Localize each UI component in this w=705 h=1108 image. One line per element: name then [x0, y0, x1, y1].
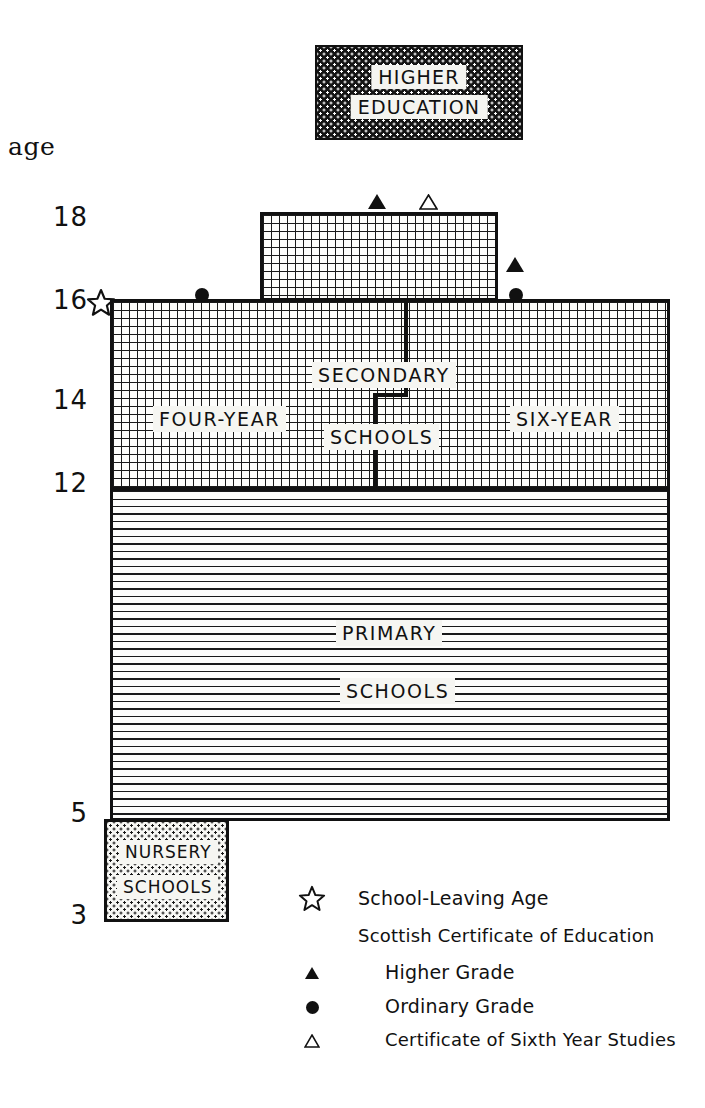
legend-item-ordinary-grade: Ordinary Grade — [295, 992, 695, 1026]
axis-tick-12: 12 — [32, 468, 88, 498]
axis-title: age — [8, 132, 55, 161]
secondary-schools-label-line2: SCHOOLS — [324, 424, 439, 450]
higher-education-label-line1: HIGHER — [371, 65, 466, 89]
axis-tick-16: 16 — [32, 285, 88, 315]
legend-item-sixth-year-studies: Certificate of Sixth Year Studies — [295, 1026, 695, 1060]
axis-tick-3: 3 — [32, 900, 88, 930]
legend-label-higher-grade: Higher Grade — [385, 961, 515, 983]
legend: School-Leaving Age Scottish Certificate … — [295, 884, 695, 1060]
secondary-schools-label-line1: SECONDARY — [312, 362, 456, 388]
legend-item-higher-grade: Higher Grade — [295, 958, 695, 992]
legend-label-sixth-year-studies: Certificate of Sixth Year Studies — [385, 1029, 676, 1050]
axis-tick-5: 5 — [32, 798, 88, 828]
axis-tick-18: 18 — [32, 202, 88, 232]
nursery-schools-block — [104, 819, 229, 922]
legend-label-school-leaving-age: School-Leaving Age — [358, 887, 549, 909]
marker-ordinary-grade-six-year-icon — [509, 288, 523, 302]
legend-label-scottish-certificate: Scottish Certificate of Education — [358, 925, 654, 946]
marker-sixth-year-studies-age18-icon — [419, 194, 438, 210]
marker-ordinary-grade-four-year-icon — [195, 288, 209, 302]
secondary-divider-step — [373, 393, 408, 397]
nursery-schools-label-line2: SCHOOLS — [117, 875, 218, 899]
six-year-schools-label: SIX-YEAR — [510, 406, 619, 432]
legend-circle-filled-icon — [295, 992, 329, 1022]
higher-education-label-line2: EDUCATION — [351, 95, 488, 119]
legend-item-school-leaving-age: School-Leaving Age — [295, 884, 695, 922]
legend-label-ordinary-grade: Ordinary Grade — [385, 995, 534, 1017]
marker-higher-grade-age18-icon — [368, 194, 386, 209]
axis-tick-14: 14 — [32, 385, 88, 415]
diagram-canvas: HIGHER EDUCATION age 18 16 14 12 5 3 SEC… — [0, 0, 705, 1108]
higher-education-block: HIGHER EDUCATION — [315, 45, 523, 140]
legend-item-scottish-certificate: Scottish Certificate of Education — [295, 922, 695, 958]
primary-schools-label-line1: PRIMARY — [336, 620, 442, 646]
legend-triangle-filled-icon — [295, 958, 329, 988]
primary-schools-label-line2: SCHOOLS — [340, 678, 455, 704]
primary-schools-block — [110, 488, 670, 821]
marker-higher-grade-age17-icon — [506, 257, 524, 272]
legend-star-outline-icon — [295, 884, 329, 914]
sixth-year-block — [260, 212, 498, 301]
legend-triangle-hollow-icon — [295, 1026, 329, 1056]
nursery-schools-label-line1: NURSERY — [119, 840, 218, 864]
four-year-schools-label: FOUR-YEAR — [153, 406, 286, 432]
